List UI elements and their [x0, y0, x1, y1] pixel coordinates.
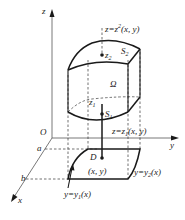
- z1-label: z1: [88, 97, 96, 108]
- upper-surface-equation: z=z2(x, y): [104, 23, 140, 34]
- x-axis-label: x: [17, 195, 22, 205]
- point-s1: [100, 112, 104, 116]
- origin-label: O: [40, 127, 47, 137]
- bottom-right-edge: [128, 97, 140, 112]
- top-right-edge: [128, 49, 140, 64]
- z2-label: z2: [104, 50, 112, 61]
- s2-label: S2: [121, 46, 129, 57]
- z-axis-label: z: [41, 6, 46, 16]
- right-curve-label: y=y2(x): [133, 167, 161, 178]
- domain-label: D: [89, 152, 97, 162]
- region-diagram: z y x O a b z=z2(x, y) S2 z2 Ω z1 S1 z=z…: [0, 0, 185, 220]
- omega-label: Ω: [110, 79, 117, 89]
- y-axis-label: y: [169, 140, 174, 150]
- tick-b: b: [21, 173, 26, 183]
- point-xy: [100, 156, 104, 160]
- z-axis-arrow-icon: [50, 9, 55, 17]
- lower-surface-equation: z=z1(x, y): [111, 126, 147, 137]
- x-axis-arrow-icon: [11, 194, 18, 202]
- solid-omega: [68, 41, 140, 120]
- s1-label: S1: [105, 109, 113, 120]
- point-z2: [100, 53, 104, 57]
- left-curve-label: y=y1(x): [63, 189, 91, 200]
- tick-a: a: [37, 143, 42, 153]
- point-xy-label: (x, y): [88, 166, 106, 176]
- bottom-front-edge: [68, 112, 128, 120]
- x-axis: [14, 138, 52, 197]
- top-front-edge: [68, 62, 128, 70]
